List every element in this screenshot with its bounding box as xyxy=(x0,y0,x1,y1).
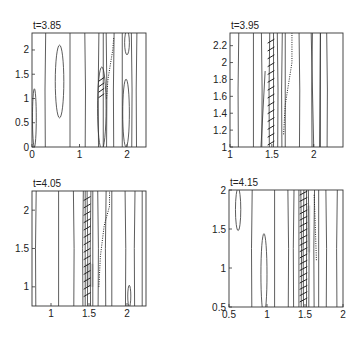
contour-line xyxy=(238,33,239,147)
x-tick-label: 1 xyxy=(48,308,54,319)
closed-contour xyxy=(32,89,36,147)
y-tick-label: 2 xyxy=(23,205,29,216)
contour-line xyxy=(45,33,46,147)
plot-area xyxy=(238,33,327,147)
subplot-t-4-15: t=4.15 0.511.520.511.52 xyxy=(212,177,346,320)
hatch-mark xyxy=(84,226,91,230)
plot-area xyxy=(235,188,337,314)
contour-line xyxy=(327,33,328,147)
y-tick-label: 2 xyxy=(220,185,226,196)
x-tick-label: 1 xyxy=(227,149,233,160)
x-tick-label: 2 xyxy=(124,149,130,160)
y-tick-label: 1 xyxy=(221,142,227,153)
contour-line xyxy=(277,33,278,147)
contour-line xyxy=(105,191,106,306)
shaded-region xyxy=(85,264,93,287)
y-tick-label: 1 xyxy=(23,93,29,104)
y-tick-label: 0 xyxy=(23,142,29,153)
contour-line xyxy=(282,33,283,147)
contour-line xyxy=(299,33,300,147)
contour-line xyxy=(85,33,86,147)
contour-line xyxy=(134,191,135,306)
y-tick-label: 1.5 xyxy=(15,69,29,80)
contour-line xyxy=(303,190,304,307)
x-tick-label: 2 xyxy=(340,309,346,320)
contour-line xyxy=(98,191,99,306)
y-tick-label: 0.5 xyxy=(15,117,29,128)
hatch-mark xyxy=(84,248,91,252)
contour-line xyxy=(73,191,74,306)
y-tick-label: 1.5 xyxy=(212,224,226,235)
contour-line xyxy=(113,33,114,147)
contour-line xyxy=(314,190,315,307)
hatch-mark xyxy=(84,219,91,223)
y-tick-label: 0.5 xyxy=(212,302,226,313)
contour-line xyxy=(293,190,294,307)
contour-figure: t=3.85 01200.511.52 t=3.95 11.5211.21.41… xyxy=(0,0,361,339)
hatch-mark xyxy=(84,233,91,237)
subplot-title: t=3.95 xyxy=(231,20,260,31)
contour-line xyxy=(106,33,107,147)
axes-frame xyxy=(230,33,343,147)
x-tick-label: 2 xyxy=(124,308,130,319)
contour-line xyxy=(131,33,132,147)
subplot-t-3-85: t=3.85 01200.511.52 xyxy=(15,20,146,160)
closed-contour xyxy=(235,188,240,230)
front-curve xyxy=(107,38,114,99)
x-tick-label: 1 xyxy=(264,309,270,320)
front-curve xyxy=(284,33,292,134)
x-tick-label: 2 xyxy=(311,149,317,160)
y-tick-label: 1.4 xyxy=(213,108,227,119)
hatch-mark xyxy=(84,293,91,297)
plot-area xyxy=(32,31,136,150)
y-tick-label: 1.8 xyxy=(213,74,227,85)
y-tick-label: 2 xyxy=(221,57,227,68)
closed-contour xyxy=(261,234,267,315)
y-tick-label: 1 xyxy=(23,281,29,292)
closed-contour xyxy=(55,45,64,118)
hatch-mark xyxy=(84,256,91,260)
contour-line xyxy=(35,191,36,306)
y-tick-label: 2.2 xyxy=(213,40,227,51)
closed-contour xyxy=(125,31,130,55)
hatch-mark xyxy=(84,241,91,245)
contour-line xyxy=(261,71,265,147)
plot-area xyxy=(35,191,142,307)
axes-frame xyxy=(32,191,146,306)
y-tick-label: 1 xyxy=(220,263,226,274)
front-curve xyxy=(99,191,110,287)
subplot-t-3-95: t=3.95 11.5211.21.41.61.822.2 xyxy=(213,20,343,160)
contour-line xyxy=(251,190,252,307)
contour-line xyxy=(288,190,289,307)
contour-line xyxy=(87,191,88,306)
closed-contour xyxy=(123,79,130,147)
y-tick-label: 2 xyxy=(23,44,29,55)
contour-line xyxy=(337,190,338,307)
y-tick-label: 1.5 xyxy=(15,243,29,254)
x-tick-label: 1 xyxy=(77,149,83,160)
contour-line xyxy=(136,33,137,147)
contour-line xyxy=(125,191,126,306)
subplot-t-4-05: t=4.05 11.5211.52 xyxy=(15,178,146,319)
closed-contour xyxy=(128,285,131,306)
subplot-title: t=4.15 xyxy=(230,177,259,188)
x-tick-label: 0 xyxy=(29,149,35,160)
subplot-title: t=3.85 xyxy=(33,20,62,31)
x-tick-label: 1.5 xyxy=(82,308,96,319)
subplot-title: t=4.05 xyxy=(33,178,62,189)
contour-line xyxy=(83,191,84,306)
contour-line xyxy=(326,190,327,307)
x-tick-label: 1.5 xyxy=(298,309,312,320)
x-tick-label: 1.5 xyxy=(265,149,279,160)
y-tick-label: 1.2 xyxy=(213,125,227,136)
y-tick-label: 1.6 xyxy=(213,91,227,102)
